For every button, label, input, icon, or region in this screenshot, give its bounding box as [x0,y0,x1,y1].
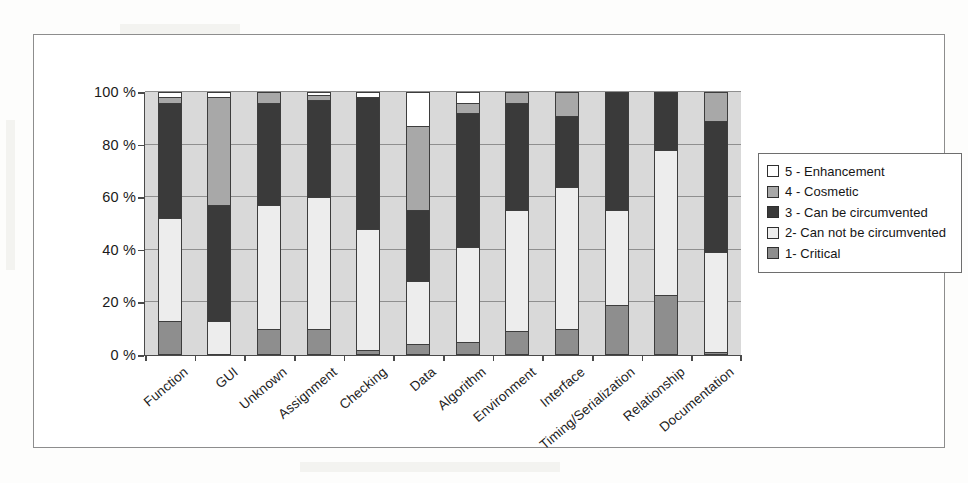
bar-segment[interactable] [307,95,331,100]
bar-segment[interactable] [505,92,529,103]
bar-segment[interactable] [605,210,629,305]
bar-segment[interactable] [307,329,331,355]
bar-group[interactable] [443,92,493,355]
stacked-bar[interactable] [704,92,728,355]
x-tick-mark-end [740,355,742,361]
bar-segment[interactable] [307,197,331,329]
bar-segment[interactable] [555,329,579,355]
bar-segment[interactable] [406,281,430,344]
bar-segment[interactable] [406,92,430,126]
legend-item-label: 4 - Cosmetic [785,184,859,199]
bar-group[interactable] [294,92,344,355]
bar-group[interactable] [642,92,692,355]
bar-segment[interactable] [257,103,281,206]
stacked-bar[interactable] [555,92,579,355]
bar-group[interactable] [195,92,245,355]
bar-segment[interactable] [654,150,678,295]
stacked-bar[interactable] [605,92,629,355]
bar-segment[interactable] [605,92,629,210]
bar-segment[interactable] [456,113,480,247]
bar-segment[interactable] [356,229,380,350]
x-label-gui: GUI [212,361,244,391]
plot-area [144,92,741,356]
bar-segment[interactable] [456,103,480,114]
legend-item-2[interactable]: 2- Can not be circumvented [767,223,953,244]
y-tick-label-80: 80 % [102,137,136,153]
bar-segment[interactable] [207,205,231,321]
bar-group[interactable] [592,92,642,355]
legend-item-label: 3 - Can be circumvented [785,205,928,220]
bar-segment[interactable] [356,97,380,229]
bar-segment[interactable] [555,187,579,329]
bar-group[interactable] [344,92,394,355]
legend-swatch-icon [767,227,779,239]
stacked-bar[interactable] [307,92,331,355]
bar-segment[interactable] [406,126,430,210]
bar-segment[interactable] [505,331,529,355]
stacked-bar[interactable] [158,92,182,355]
x-axis-category-labels: FunctionGUIUnknownAssignmentCheckingData… [144,357,740,467]
bar-segment[interactable] [704,352,728,355]
bar-group[interactable] [691,92,741,355]
bar-segment[interactable] [704,121,728,253]
bar-segment[interactable] [207,321,231,355]
x-label-text: Function [141,361,195,410]
bar-segment[interactable] [406,344,430,355]
bar-segment[interactable] [307,92,331,95]
y-axis: 100 %80 %60 %40 %20 %0 % [82,92,136,355]
bar-segment[interactable] [555,116,579,187]
bar-group[interactable] [145,92,195,355]
stacked-bar[interactable] [456,92,480,355]
stacked-bar[interactable] [406,92,430,355]
bar-segment[interactable] [555,92,579,116]
bar-segment[interactable] [207,92,231,97]
stacked-bar[interactable] [207,92,231,355]
legend-swatch-icon [767,165,779,177]
legend-swatch-icon [767,186,779,198]
x-label-function: Function [141,361,195,410]
bar-group[interactable] [542,92,592,355]
stacked-bar[interactable] [257,92,281,355]
bar-segment[interactable] [158,218,182,321]
bar-segment[interactable] [158,321,182,355]
legend-item-3[interactable]: 3 - Can be circumvented [767,202,953,223]
stacked-bar[interactable] [505,92,529,355]
y-tick-label-0: 0 % [110,347,136,363]
bar-segment[interactable] [356,92,380,97]
bar-segment[interactable] [158,97,182,102]
bar-segment[interactable] [456,92,480,103]
x-label-text: Data [407,361,443,394]
legend-swatch-icon [767,247,779,259]
bar-segment[interactable] [654,295,678,355]
stacked-bar[interactable] [356,92,380,355]
bar-group[interactable] [493,92,543,355]
bar-segment[interactable] [406,210,430,281]
bar-segment[interactable] [456,342,480,355]
bar-segment[interactable] [456,247,480,342]
bar-segment[interactable] [605,305,629,355]
bar-segment[interactable] [207,97,231,205]
chart-legend: 5 - Enhancement4 - Cosmetic3 - Can be ci… [758,153,962,273]
y-tick-label-40: 40 % [102,242,136,258]
bar-segment[interactable] [257,329,281,355]
bar-segment[interactable] [158,103,182,219]
bar-segment[interactable] [704,92,728,121]
legend-item-5[interactable]: 5 - Enhancement [767,161,953,182]
legend-item-label: 1- Critical [785,246,840,261]
bar-group[interactable] [244,92,294,355]
bar-segment[interactable] [257,205,281,329]
chart-figure-frame: 100 %80 %60 %40 %20 %0 % FunctionGUIUnkn… [33,34,945,448]
bar-segment[interactable] [505,103,529,211]
stacked-bar[interactable] [654,92,678,355]
bar-segment[interactable] [356,350,380,355]
bar-segment[interactable] [704,252,728,352]
legend-item-1[interactable]: 1- Critical [767,243,953,264]
legend-item-4[interactable]: 4 - Cosmetic [767,182,953,203]
bar-segment[interactable] [654,92,678,150]
bar-segment[interactable] [158,92,182,97]
bar-segment[interactable] [257,92,281,103]
bar-segment[interactable] [307,100,331,197]
bar-group[interactable] [393,92,443,355]
legend-item-label: 5 - Enhancement [785,164,885,179]
bar-segment[interactable] [505,210,529,331]
